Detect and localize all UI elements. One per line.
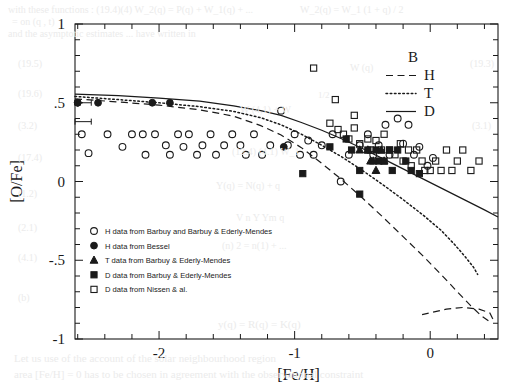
data-point-open-circle [104, 131, 111, 138]
marker-legend-label: D data from Barbuy & Ederly-Mendes [105, 271, 231, 280]
data-point-filled-square [357, 191, 363, 197]
data-point-open-circle [267, 142, 274, 149]
data-point-open-circle [278, 107, 285, 114]
data-point-open-square [476, 158, 482, 164]
x-axis-tick-label: -2 [153, 345, 166, 361]
data-point-filled-circle [149, 99, 156, 106]
data-point-open-circle [251, 131, 258, 138]
data-point-filled-square [389, 167, 395, 173]
marker-legend-label: T data from Barbuy & Ederly-Mendes [105, 256, 230, 265]
data-point-open-circle [139, 131, 146, 138]
curve-legend-label: T [424, 85, 433, 101]
data-point-open-circle [394, 115, 401, 122]
marker-legend-label: D data from Nissen & al. [105, 285, 187, 294]
data-point-open-circle [152, 131, 159, 138]
data-point-filled-circle [74, 99, 81, 106]
marker-legend-sample-open-square [91, 286, 97, 292]
data-point-filled-circle [280, 143, 287, 150]
x-axis-tick-label: 0 [426, 345, 434, 361]
x-axis-tick-label: -1 [288, 345, 301, 361]
marker-legend-label: H data from Bessel [105, 242, 170, 251]
data-point-open-circle [167, 151, 174, 158]
data-point-filled-circle [95, 99, 102, 106]
data-point-open-circle [297, 151, 304, 158]
data-point-filled-square [381, 158, 387, 164]
data-point-open-circle [382, 121, 389, 128]
y-axis-tick-label: -.5 [49, 252, 65, 268]
marker-legend-sample-open-circle [91, 228, 98, 235]
marker-legend-sample-filled-square [91, 272, 97, 278]
data-point-filled-square [357, 167, 363, 173]
data-point-open-circle [259, 151, 266, 158]
data-point-open-circle [242, 151, 249, 158]
data-point-open-circle [207, 131, 214, 138]
y-axis-tick-label: 0 [58, 174, 66, 190]
data-point-open-circle [405, 121, 412, 128]
marker-legend-sample-filled-circle [91, 242, 98, 249]
data-point-open-square [311, 65, 317, 71]
curve-legend-label: D [424, 103, 435, 119]
data-point-open-square [351, 125, 357, 131]
data-point-open-circle [229, 131, 236, 138]
data-point-open-circle [185, 131, 192, 138]
scatter-plot: -2-101.50-.5-1[Fe/H][O/Fe]BHTDH data fro… [0, 0, 522, 384]
data-point-open-circle [175, 131, 182, 138]
y-axis-title: [O/Fe] [8, 160, 25, 203]
x-axis-title: [Fe/H] [277, 366, 320, 383]
data-point-open-square [468, 167, 474, 173]
data-point-open-circle [213, 151, 220, 158]
data-point-open-circle [237, 142, 244, 149]
data-point-open-square [438, 167, 444, 173]
y-axis-tick-label: .5 [54, 95, 65, 111]
data-point-open-circle [85, 150, 92, 157]
data-point-open-circle [194, 151, 201, 158]
data-point-open-square [454, 158, 460, 164]
data-point-open-square [351, 112, 357, 118]
data-point-filled-square [327, 144, 333, 150]
data-point-open-square [405, 147, 411, 153]
data-point-open-square [449, 167, 455, 173]
data-point-filled-square [300, 171, 306, 177]
curve-legend-label: H [424, 67, 435, 83]
data-point-open-circle [162, 142, 169, 149]
curve-legend-title: B [408, 49, 418, 65]
data-point-filled-square [348, 147, 354, 153]
marker-legend-sample-filled-triangle [90, 256, 98, 263]
data-point-open-circle [129, 131, 136, 138]
data-point-open-circle [180, 143, 187, 150]
data-point-open-circle [142, 151, 149, 158]
data-point-open-circle [221, 142, 228, 149]
y-axis-tick-label: -1 [53, 331, 66, 347]
data-point-open-square [381, 131, 387, 137]
data-point-filled-triangle [372, 166, 380, 173]
marker-legend-label: H data from Barbuy and Barbuy & Ederly-M… [105, 227, 272, 236]
figure-root: with these functions : (19.4)(4) W_2(q) … [0, 0, 522, 384]
data-point-open-square [419, 158, 425, 164]
data-point-open-square [332, 97, 338, 103]
data-point-open-circle [199, 142, 206, 149]
data-point-open-square [327, 120, 333, 126]
data-point-open-square [443, 147, 449, 153]
y-axis-tick-label: 1 [58, 16, 66, 32]
data-point-filled-circle [167, 99, 174, 106]
data-point-open-circle [119, 143, 126, 150]
data-point-open-square [460, 147, 466, 153]
data-point-open-circle [364, 131, 371, 138]
